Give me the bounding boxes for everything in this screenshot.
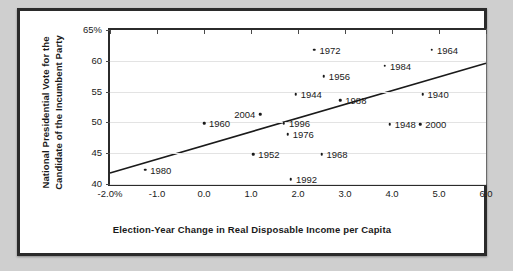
data-point-marker [431, 48, 434, 51]
y-axis-tick-label: 45 [58, 147, 102, 158]
data-point-marker [323, 75, 326, 78]
data-point-label: 1944 [301, 89, 322, 100]
x-tick-mark [345, 30, 346, 34]
data-point-label: 2004 [234, 109, 255, 120]
data-point-label: 1976 [293, 129, 314, 140]
gridline [110, 61, 486, 62]
plot-area: 65%6055504540-2.0%-1.00.01.02.03.04.05.0… [108, 28, 487, 186]
y-tick-mark [106, 92, 110, 93]
data-point-marker [339, 99, 342, 102]
y-axis-title-line-1: National Presidential Vote for the [40, 18, 53, 208]
data-point-label: 1968 [327, 149, 348, 160]
data-point-marker [419, 123, 422, 126]
y-tick-mark [106, 153, 110, 154]
x-tick-mark [157, 30, 158, 34]
x-tick-mark [110, 30, 111, 34]
data-point-label: 1948 [395, 119, 416, 130]
x-tick-mark [392, 30, 393, 34]
data-point-label: 1988 [345, 95, 366, 106]
data-point-label: 1996 [289, 118, 310, 129]
data-point-marker [313, 48, 316, 51]
data-point-marker [384, 64, 387, 67]
data-point-label: 1972 [319, 44, 340, 55]
regression-line [110, 30, 486, 184]
data-point-label: 1956 [329, 71, 350, 82]
data-point-marker [144, 169, 147, 172]
y-axis-tick-label: 50 [58, 116, 102, 127]
x-tick-mark [298, 30, 299, 34]
data-point-marker [421, 93, 424, 96]
figure-frame: National Presidential Vote for the Candi… [17, 8, 487, 256]
y-axis-tick-label: 60 [58, 55, 102, 66]
gridline [110, 153, 486, 154]
data-point-label: 2000 [425, 119, 446, 130]
data-point-marker [283, 122, 286, 125]
data-point-marker [294, 93, 297, 96]
data-point-marker [286, 133, 289, 136]
y-tick-mark [106, 122, 110, 123]
x-tick-mark [439, 30, 440, 34]
data-point-marker [290, 178, 293, 181]
data-point-label: 1980 [150, 164, 171, 175]
y-axis-tick-label: 65% [58, 24, 102, 35]
y-tick-mark [106, 61, 110, 62]
data-point-marker [252, 153, 255, 156]
figure-inner-border: National Presidential Vote for the Candi… [20, 11, 484, 253]
x-tick-mark [486, 30, 487, 34]
data-point-marker [388, 123, 391, 126]
data-point-label: 1992 [296, 174, 317, 185]
data-point-marker [320, 153, 323, 156]
x-tick-mark [251, 30, 252, 34]
data-point-label: 1984 [390, 60, 411, 71]
y-axis-tick-label: 55 [58, 86, 102, 97]
x-tick-mark [204, 30, 205, 34]
data-point-marker [259, 113, 262, 116]
data-point-label: 1952 [258, 149, 279, 160]
y-tick-mark [106, 184, 110, 185]
data-point-label: 1960 [209, 118, 230, 129]
data-point-marker [203, 122, 206, 125]
data-point-label: 1964 [437, 44, 458, 55]
x-axis-title: Election-Year Change in Real Disposable … [21, 224, 483, 235]
data-point-label: 1940 [428, 89, 449, 100]
x-axis-tick-label: 6.0 [456, 188, 513, 199]
